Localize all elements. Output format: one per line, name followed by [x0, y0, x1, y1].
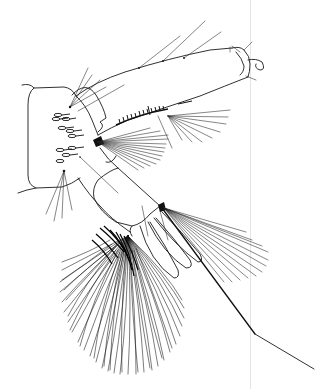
ventral-brush — [60, 236, 184, 374]
abdominal-segment-8 — [18, 84, 98, 193]
pecten — [116, 101, 192, 125]
larva-illustration — [0, 0, 321, 389]
dorsal-fan — [93, 128, 168, 170]
siphonal-tuft — [158, 110, 230, 148]
siphon-apex-valves — [230, 42, 264, 80]
comb-scales — [52, 113, 84, 162]
anal-segment — [78, 148, 160, 236]
drawing-canvas — [0, 0, 321, 389]
dorsal-brush — [164, 208, 268, 282]
lateral-setae — [46, 170, 72, 221]
siphon — [69, 21, 248, 135]
